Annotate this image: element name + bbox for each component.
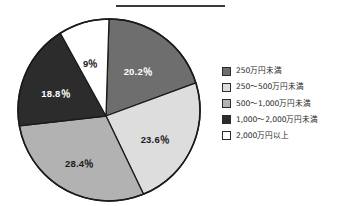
- pie-slice-label: 18.8％: [41, 88, 71, 99]
- legend-item[interactable]: 250〜500万円未満: [222, 79, 336, 95]
- pie-slice-label: 20.2％: [124, 66, 154, 77]
- legend-swatch-icon: [222, 67, 231, 76]
- legend-swatch-icon: [222, 83, 231, 92]
- legend-label: 500〜1,000万円未満: [236, 100, 311, 108]
- legend-swatch-icon: [222, 99, 231, 108]
- pie-chart-svg: 20.2％23.6％28.4％18.8％9％: [14, 16, 204, 204]
- pie-slice-label: 9％: [83, 58, 99, 69]
- legend-swatch-icon: [222, 115, 231, 124]
- legend-item[interactable]: 250万円未満: [222, 63, 336, 79]
- legend-label: 1,000〜2,000万円未満: [236, 116, 318, 124]
- top-divider-rule: [116, 5, 225, 7]
- chart-legend: 250万円未満250〜500万円未満500〜1,000万円未満1,000〜2,0…: [222, 63, 336, 144]
- legend-item[interactable]: 2,000万円以上: [222, 128, 336, 144]
- legend-item[interactable]: 500〜1,000万円未満: [222, 95, 336, 111]
- pie-chart-area: 20.2％23.6％28.4％18.8％9％: [14, 16, 204, 204]
- legend-label: 2,000万円以上: [236, 132, 289, 140]
- legend-label: 250万円未満: [236, 67, 282, 75]
- pie-slice-group: [18, 19, 200, 201]
- pie-chart-figure: 20.2％23.6％28.4％18.8％9％ 250万円未満250〜500万円未…: [0, 0, 338, 206]
- pie-slice-label: 28.4％: [65, 158, 95, 169]
- pie-slice-label: 23.6％: [141, 134, 171, 145]
- legend-item[interactable]: 1,000〜2,000万円未満: [222, 112, 336, 128]
- legend-swatch-icon: [222, 131, 231, 140]
- legend-label: 250〜500万円未満: [236, 83, 304, 91]
